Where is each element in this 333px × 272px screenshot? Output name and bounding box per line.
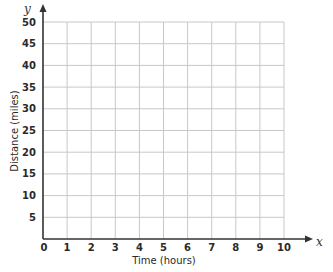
x-tick-label: 3 [112,242,119,253]
x-axis-arrow-icon [305,236,313,243]
y-tick-label: 50 [22,17,36,28]
y-tick-label: 35 [22,82,36,93]
y-tick-label: 5 [29,212,36,223]
y-tick-label: 25 [22,125,36,136]
x-axis-title: Time (hours) [131,255,196,266]
y-tick-label: 40 [22,60,36,71]
x-tick-label: 6 [184,242,191,253]
y-variable-label: y [23,2,31,16]
x-tick-label: 2 [88,242,95,253]
x-variable-label: x [316,235,323,249]
axes [40,4,314,243]
y-axis-arrow-icon [40,4,47,12]
y-tick-labels: 5101520253035404550 [22,17,36,223]
coordinate-grid-chart: 012345678910 5101520253035404550 Time (h… [0,0,333,272]
x-tick-label: 4 [136,242,143,253]
y-tick-label: 15 [22,168,36,179]
x-tick-label: 10 [277,242,291,253]
x-tick-labels: 012345678910 [41,242,291,253]
x-tick-label: 5 [160,242,167,253]
x-tick-label: 0 [41,242,48,253]
x-tick-label: 7 [208,242,215,253]
y-tick-label: 30 [22,103,36,114]
x-tick-label: 8 [232,242,239,253]
y-tick-label: 45 [22,38,36,49]
grid-lines [43,22,284,239]
y-tick-label: 10 [22,190,36,201]
x-tick-label: 9 [256,242,263,253]
x-tick-label: 1 [64,242,71,253]
y-tick-label: 20 [22,147,36,158]
y-axis-title: Distance (miles) [9,90,20,171]
